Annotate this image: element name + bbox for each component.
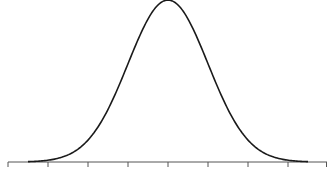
bell-curve (28, 0, 308, 162)
bell-curve-chart (0, 0, 328, 175)
x-axis (8, 162, 327, 167)
